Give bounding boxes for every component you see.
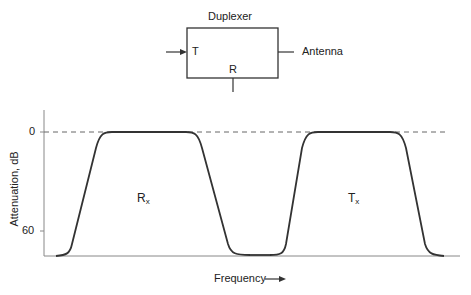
- port-r-label: R: [229, 63, 237, 75]
- tx-label: Tx: [348, 191, 359, 206]
- duplexer-title: Duplexer: [208, 10, 252, 22]
- y-tick-label-60: 60: [22, 224, 34, 236]
- tx-label-sub: x: [355, 197, 359, 206]
- rx-label-sub: x: [146, 197, 150, 206]
- port-t-label: T: [192, 45, 199, 57]
- x-axis-label: Frequency: [214, 272, 266, 284]
- y-axis-label: Attenuation, dB: [8, 151, 20, 226]
- rx-filter-curve: [56, 132, 250, 256]
- antenna-label: Antenna: [302, 45, 343, 57]
- rx-label: Rx: [137, 191, 150, 206]
- arrow-right-icon: [279, 276, 286, 282]
- y-tick-label-0: 0: [29, 125, 35, 137]
- rx-label-main: R: [137, 191, 146, 205]
- arrow-right-icon: [180, 49, 187, 55]
- duplexer-diagram-canvas: [0, 0, 471, 295]
